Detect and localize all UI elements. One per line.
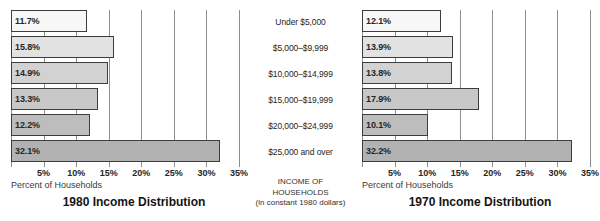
bar-value-label: 15.8% — [15, 36, 40, 58]
bar — [362, 140, 572, 162]
footer-line-3: (in constant 1980 dollars) — [244, 198, 357, 209]
x-tick-label: 10% — [67, 168, 85, 178]
bar-row: 32.2% — [362, 140, 590, 162]
category-label: $5,000–$9,999 — [250, 43, 351, 53]
x-tick-label: 15% — [451, 168, 469, 178]
x-tick-label: 30% — [548, 168, 566, 178]
x-tick-label: 25% — [165, 168, 183, 178]
bar-value-label: 32.2% — [366, 140, 391, 162]
category-label: $25,000 and over — [250, 147, 351, 157]
bar-row: 12.1% — [362, 10, 590, 32]
category-label: Under $5,000 — [250, 17, 351, 27]
footer-line-2: HOUSEHOLDS — [244, 188, 357, 199]
x-tick-label: 30% — [197, 168, 215, 178]
bar-value-label: 13.8% — [366, 62, 391, 84]
chart-panel-1970: 12.1%13.9%13.8%17.9%10.1%32.2% 5%10%15%2… — [351, 0, 600, 221]
x-tick-label: 20% — [132, 168, 150, 178]
bar-rows-1980: 11.7%15.8%14.9%13.3%12.2%32.1% — [11, 10, 239, 167]
gridline — [239, 10, 240, 167]
plot-area-1970: 12.1%13.9%13.8%17.9%10.1%32.2% — [362, 10, 590, 167]
category-label: $10,000–$14,999 — [250, 69, 351, 79]
income-distribution-figure: 11.7%15.8%14.9%13.3%12.2%32.1% 5%10%15%2… — [0, 0, 600, 221]
footer-line-1: INCOME OF — [244, 177, 357, 188]
x-tick-label: 5% — [37, 168, 50, 178]
x-tick-label: 25% — [516, 168, 534, 178]
plot-area-1980: 11.7%15.8%14.9%13.3%12.2%32.1% — [11, 10, 239, 167]
x-axis-ticks-1970: 5%10%15%20%25%30%35% — [362, 168, 590, 180]
bar-row: 13.8% — [362, 62, 590, 84]
bar-row: 12.2% — [11, 114, 239, 136]
x-axis-caption-1980: Percent of Households — [11, 180, 102, 190]
x-axis-caption-1970: Percent of Households — [362, 180, 453, 190]
bar-value-label: 13.3% — [15, 88, 40, 110]
category-column: Under $5,000$5,000–$9,999$10,000–$14,999… — [250, 0, 351, 221]
x-tick-label: 15% — [100, 168, 118, 178]
bar-row: 15.8% — [11, 36, 239, 58]
bar-row: 10.1% — [362, 114, 590, 136]
bar-value-label: 32.1% — [15, 140, 40, 162]
bar-rows-1970: 12.1%13.9%13.8%17.9%10.1%32.2% — [362, 10, 590, 167]
bar-row: 32.1% — [11, 140, 239, 162]
bar-row: 13.3% — [11, 88, 239, 110]
bar-value-label: 10.1% — [366, 114, 391, 136]
bar-row: 14.9% — [11, 62, 239, 84]
bar-row: 13.9% — [362, 36, 590, 58]
bar-row: 11.7% — [11, 10, 239, 32]
bar-row: 17.9% — [362, 88, 590, 110]
chart-title-1980: 1980 Income Distribution — [0, 195, 250, 209]
category-column-footer: INCOME OF HOUSEHOLDS (in constant 1980 d… — [244, 177, 357, 209]
category-label: $20,000–$24,999 — [250, 121, 351, 131]
bar-value-label: 14.9% — [15, 62, 40, 84]
x-tick-label: 35% — [581, 168, 599, 178]
bar-value-label: 12.2% — [15, 114, 40, 136]
category-label: $15,000–$19,999 — [250, 95, 351, 105]
bar-value-label: 11.7% — [15, 10, 40, 32]
x-tick-label: 10% — [418, 168, 436, 178]
bar-value-label: 13.9% — [366, 36, 391, 58]
chart-title-1970: 1970 Income Distribution — [351, 195, 600, 209]
bar — [11, 140, 220, 162]
x-tick-label: 5% — [388, 168, 401, 178]
x-axis-ticks-1980: 5%10%15%20%25%30%35% — [11, 168, 239, 180]
x-tick-label: 20% — [483, 168, 501, 178]
chart-panel-1980: 11.7%15.8%14.9%13.3%12.2%32.1% 5%10%15%2… — [0, 0, 250, 221]
bar-value-label: 17.9% — [366, 88, 391, 110]
bar-value-label: 12.1% — [366, 10, 391, 32]
gridline — [590, 10, 591, 167]
